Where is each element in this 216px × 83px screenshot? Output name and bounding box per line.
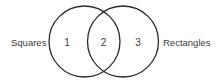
region-2-label: 2: [101, 37, 107, 48]
squares-label: Squares: [11, 37, 47, 48]
venn-diagram: Squares Rectangles 1 2 3: [0, 0, 216, 83]
region-1-label: 1: [64, 37, 70, 48]
region-3-label: 3: [135, 37, 141, 48]
rectangles-circle: [88, 6, 159, 77]
rectangles-label: Rectangles: [163, 37, 211, 48]
squares-circle: [49, 6, 120, 77]
